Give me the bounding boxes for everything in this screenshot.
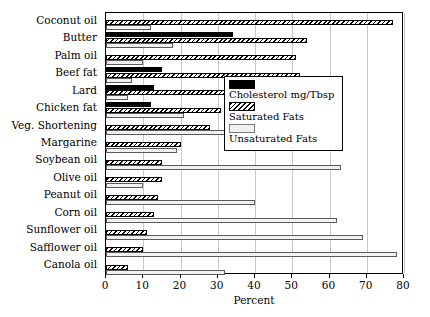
legend-label-cholesterol: Cholesterol mg/Tbsp [229, 89, 338, 101]
y-axis-label-lard: Lard [72, 85, 97, 96]
legend-swatch-unsaturated-icon [229, 124, 255, 133]
y-axis-label-veg-shortening: Veg. Shortening [11, 120, 97, 131]
x-tick-label: 40 [239, 279, 269, 291]
x-tick [291, 274, 292, 278]
x-tick [217, 274, 218, 278]
bar-row [106, 13, 402, 30]
x-tick [180, 274, 181, 278]
y-axis-label-safflower-oil: Safflower oil [30, 242, 97, 253]
bar-row [106, 240, 402, 257]
gridline [404, 13, 405, 273]
x-tick-label: 20 [165, 279, 195, 291]
y-axis-label-soybean-oil: Soybean oil [35, 154, 97, 165]
y-axis-label-beef-fat: Beef fat [55, 67, 97, 78]
y-axis-label-corn-oil: Corn oil [54, 207, 97, 218]
x-tick-label: 50 [276, 279, 306, 291]
x-tick [329, 274, 330, 278]
legend-item-saturated: Saturated Fats [229, 102, 338, 123]
bar-row [106, 30, 402, 47]
x-tick [105, 274, 106, 278]
bar-row [106, 205, 402, 222]
y-axis-label-canola-oil: Canola oil [44, 259, 97, 270]
y-axis-label-sunflower-oil: Sunflower oil [26, 224, 97, 235]
y-axis-label-butter: Butter [63, 32, 97, 43]
bar-row [106, 258, 402, 275]
chart-legend: Cholesterol mg/Tbsp Saturated Fats Unsat… [224, 76, 343, 151]
x-tick [142, 274, 143, 278]
y-axis-category-labels: Coconut oilButterPalm oilBeef fatLardChi… [0, 12, 101, 274]
fat-composition-bar-chart: Coconut oilButterPalm oilBeef fatLardChi… [0, 0, 430, 317]
legend-swatch-cholesterol-icon [229, 80, 255, 89]
legend-item-cholesterol: Cholesterol mg/Tbsp [229, 80, 338, 101]
x-tick-label: 30 [202, 279, 232, 291]
x-tick-label: 60 [314, 279, 344, 291]
legend-label-saturated: Saturated Fats [229, 111, 338, 123]
bar-row [106, 153, 402, 170]
x-tick-label: 10 [127, 279, 157, 291]
x-tick-label: 0 [90, 279, 120, 291]
bar-row [106, 188, 402, 205]
y-axis-label-olive-oil: Olive oil [53, 172, 97, 183]
x-tick [403, 274, 404, 278]
x-tick-label: 80 [388, 279, 418, 291]
bar-unsaturated [106, 270, 225, 275]
bar-row [106, 48, 402, 65]
bar-row [106, 223, 402, 240]
y-axis-label-coconut-oil: Coconut oil [36, 15, 97, 26]
x-tick-label: 70 [351, 279, 381, 291]
x-axis-title: Percent [105, 294, 403, 306]
x-tick [366, 274, 367, 278]
y-axis-label-palm-oil: Palm oil [54, 50, 97, 61]
y-axis-label-margarine: Margarine [41, 137, 97, 148]
bar-row [106, 170, 402, 187]
y-axis-label-chicken-fat: Chicken fat [36, 102, 97, 113]
y-axis-label-peanut-oil: Peanut oil [44, 189, 97, 200]
x-tick [254, 274, 255, 278]
legend-item-unsaturated: Unsaturated Fats [229, 124, 338, 145]
legend-label-unsaturated: Unsaturated Fats [229, 133, 338, 145]
legend-swatch-saturated-icon [229, 102, 255, 111]
